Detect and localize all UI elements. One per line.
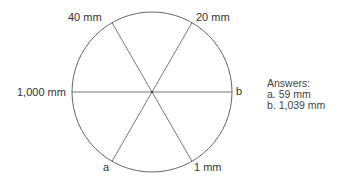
label-b: b <box>236 86 242 97</box>
answer-b: b. 1,039 mm <box>267 100 325 111</box>
answers-block: Answers: a. 59 mm b. 1,039 mm <box>267 78 325 111</box>
label-20mm: 20 mm <box>196 12 230 23</box>
label-40mm: 40 mm <box>68 12 102 23</box>
label-1000mm: 1,000 mm <box>17 87 66 98</box>
label-1mm: 1 mm <box>194 162 222 173</box>
center-point <box>151 91 153 93</box>
label-a: a <box>103 162 109 173</box>
